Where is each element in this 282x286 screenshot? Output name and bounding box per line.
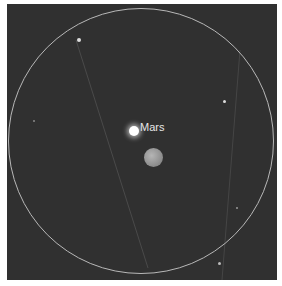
star bbox=[33, 120, 35, 122]
star bbox=[223, 100, 226, 103]
mars-marker[interactable] bbox=[129, 126, 139, 136]
moon[interactable] bbox=[144, 148, 163, 167]
mars-label: Mars bbox=[140, 121, 164, 133]
star bbox=[77, 38, 81, 42]
star bbox=[218, 262, 221, 265]
star bbox=[236, 207, 238, 209]
field-of-view-circle bbox=[8, 8, 274, 274]
